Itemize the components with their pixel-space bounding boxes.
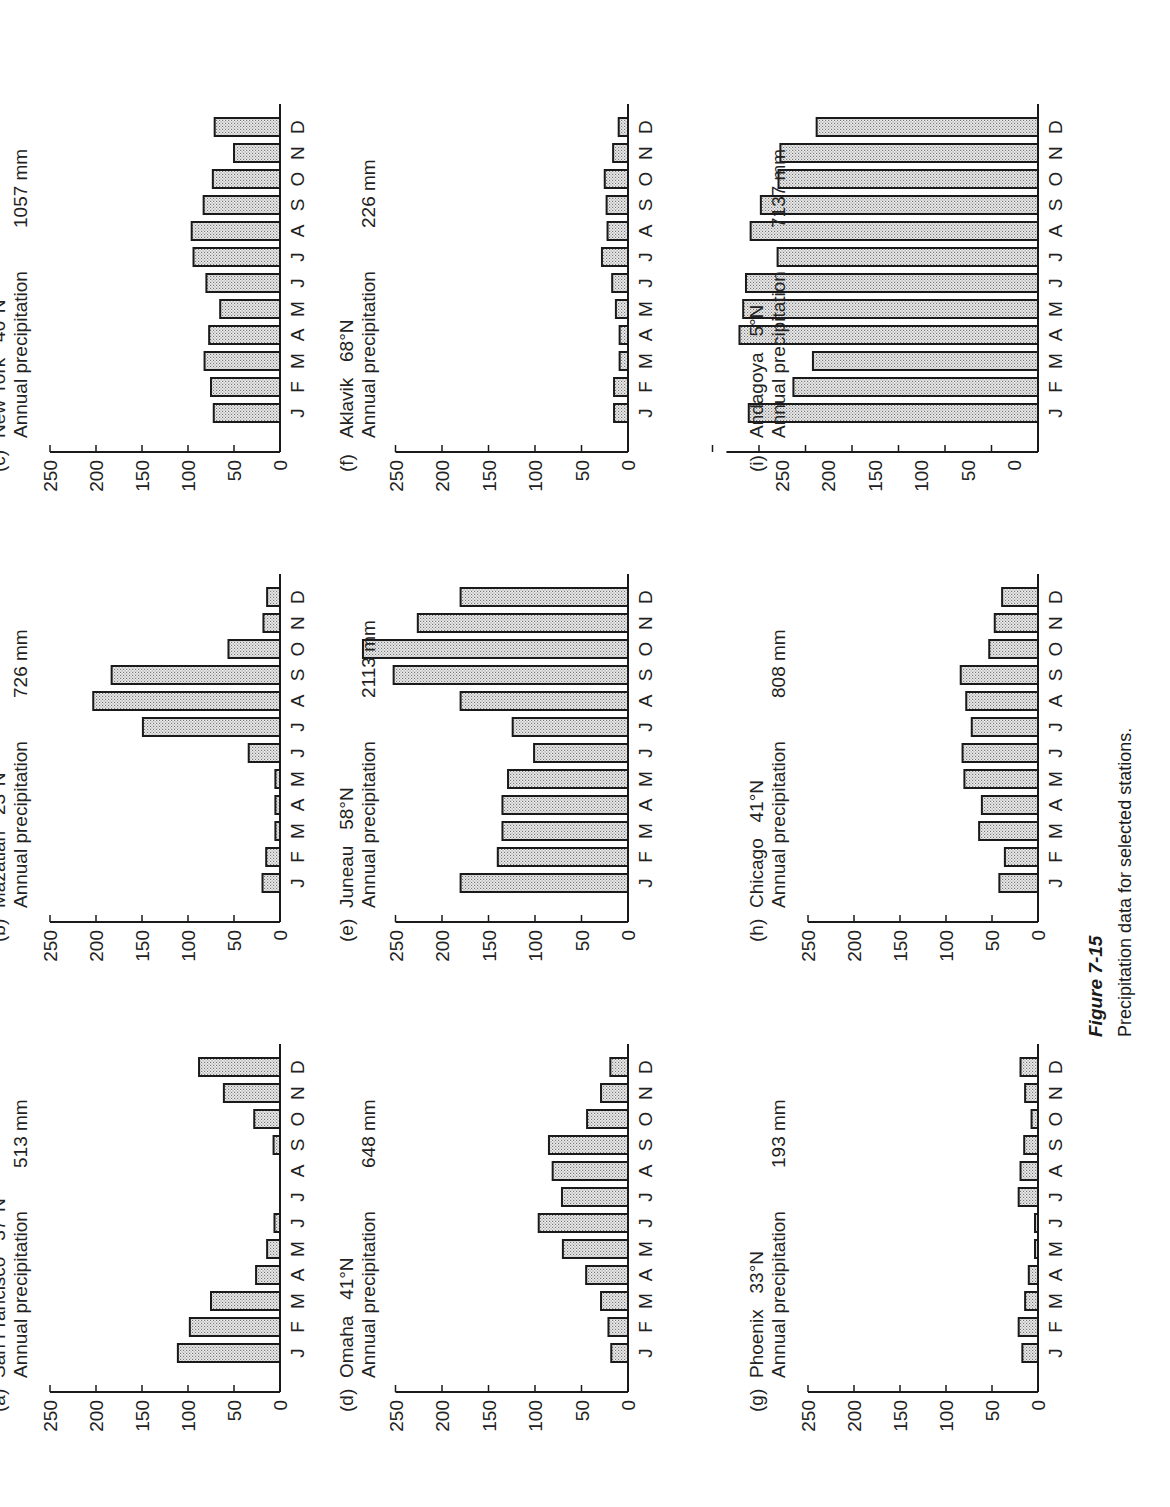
month-label: N [287,146,308,160]
bar-i-9 [779,170,1038,188]
month-label: S [635,1139,656,1152]
month-label: M [1045,1293,1066,1309]
annual-total: 1057 mm [10,149,32,228]
bar-f-7 [608,222,628,240]
month-label: M [287,353,308,369]
axis-tick-label: 50 [982,930,1003,951]
axis-tick-label: 200 [844,930,865,962]
axis-tick-label: 50 [224,460,245,481]
bar-f-8 [607,196,628,214]
bar-g-7 [1021,1162,1038,1180]
axis-tick-label: 0 [1004,460,1025,471]
axis-tick-label: 150 [890,930,911,962]
bar-e-0 [461,874,628,892]
axis-tick-label: 200 [432,1400,453,1432]
precipitation-charts: 050100150200250JFMAMJJASOND0501001502002… [0,0,1170,1507]
chart-panel-h: 050100150200250JFMAMJJASOND [798,574,1066,962]
panel-letter: (e) [336,919,358,942]
bar-b-10 [263,614,280,632]
month-label: O [1045,642,1066,657]
bar-e-1 [498,848,628,866]
month-label: J [1045,278,1066,288]
bar-c-11 [215,118,280,136]
month-label: F [635,1321,656,1333]
axis-tick-label: 200 [86,460,107,492]
bar-i-11 [817,118,1038,136]
bar-c-1 [211,378,280,396]
month-label: D [1045,1060,1066,1074]
month-label: N [635,146,656,160]
bar-g-0 [1022,1344,1038,1362]
bar-d-5 [539,1214,628,1232]
month-label: J [1045,1192,1066,1202]
chart-panel-g: 050100150200250JFMAMJJASOND [798,1044,1066,1432]
bar-a-3 [256,1266,280,1284]
bar-f-6 [602,248,628,266]
month-label: O [1045,1112,1066,1127]
month-label: N [635,616,656,630]
axis-tick-label: 250 [40,460,61,492]
month-label: N [635,1086,656,1100]
axis-tick-label: 150 [479,1400,500,1432]
bar-a-10 [224,1084,280,1102]
bar-e-9 [363,640,628,658]
month-label: J [1045,748,1066,758]
month-label: A [635,694,656,707]
bar-i-10 [780,144,1038,162]
month-label: M [635,1293,656,1309]
month-label: M [1045,301,1066,317]
month-label: F [635,381,656,393]
bar-c-4 [220,300,280,318]
axis-tick-label: 100 [911,460,932,492]
axis-tick-label: 0 [618,1400,639,1411]
chart-panel-d: 050100150200250JFMAMJJASOND [386,1044,657,1432]
month-label: O [635,172,656,187]
month-label: J [635,1348,656,1358]
annual-total: 648 mm [358,1099,380,1168]
bar-f-11 [619,118,628,136]
month-label: A [287,694,308,707]
bar-d-8 [549,1136,628,1154]
axis-tick-label: 100 [936,1400,957,1432]
bar-a-1 [190,1318,280,1336]
panel-letter: (d) [336,1389,358,1412]
bar-e-2 [502,822,628,840]
bar-b-8 [112,666,280,684]
month-label: A [287,224,308,237]
bar-h-2 [979,822,1038,840]
annual-label: Annual precipitation [10,271,32,438]
bar-e-3 [502,796,628,814]
rotated-figure: 050100150200250JFMAMJJASOND0501001502002… [0,0,1170,1507]
month-label: D [635,1060,656,1074]
bar-i-8 [761,196,1038,214]
axis-tick-label: 150 [865,460,886,492]
axis-tick-label: 0 [1028,1400,1049,1411]
bar-d-7 [553,1162,628,1180]
bar-e-4 [508,770,628,788]
bar-g-3 [1029,1266,1038,1284]
station-name: Mazatlan 23°N [0,773,10,908]
bar-e-11 [461,588,628,606]
bar-f-4 [616,300,628,318]
bar-f-1 [614,378,628,396]
station-name: Juneau 58°N [336,787,358,908]
bar-c-10 [234,144,280,162]
bar-h-5 [963,744,1038,762]
bar-e-5 [534,744,628,762]
station-name: Phoenix 33°N [746,1251,768,1378]
month-label: D [287,1060,308,1074]
month-label: A [1045,1268,1066,1281]
panel-letter: (a) [0,1389,10,1412]
month-label: A [1045,694,1066,707]
annual-total: 808 mm [768,629,790,698]
month-label: A [1045,224,1066,237]
month-label: N [1045,616,1066,630]
month-label: F [1045,851,1066,863]
bar-g-2 [1025,1292,1038,1310]
month-label: D [635,120,656,134]
bar-a-11 [199,1058,280,1076]
month-label: M [287,823,308,839]
axis-tick-label: 150 [890,1400,911,1432]
annual-label: Annual precipitation [768,271,790,438]
axis-tick-label: 0 [618,930,639,941]
